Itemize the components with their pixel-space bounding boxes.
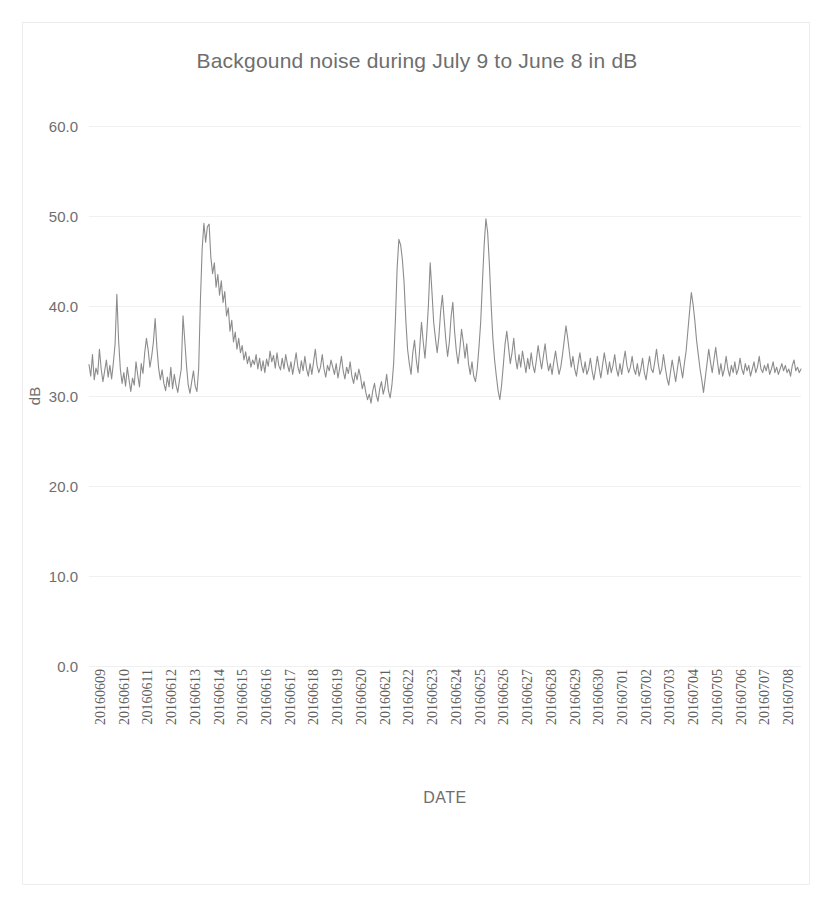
y-axis-tick-label: 40.0	[49, 298, 78, 315]
y-axis-tick-label: 30.0	[49, 388, 78, 405]
x-axis-title: DATE	[89, 789, 801, 807]
gridline	[89, 666, 801, 667]
x-axis-tick-label: 20160609	[93, 669, 109, 725]
x-axis-tick-label: 20160628	[544, 669, 560, 725]
x-axis-tick-label: 20160703	[662, 669, 678, 725]
x-axis-tick-label: 20160702	[639, 669, 655, 725]
y-axis-title: dB	[26, 387, 43, 405]
x-axis-tick-label: 20160701	[615, 669, 631, 725]
x-axis-tick-label: 20160621	[378, 669, 394, 725]
y-axis-tick-label: 20.0	[49, 478, 78, 495]
plot-area: 0.010.020.030.040.050.060.0 dB	[89, 126, 801, 666]
y-axis-tick-label: 0.0	[57, 658, 78, 675]
x-axis-tick-label: 20160624	[449, 669, 465, 725]
x-axis-tick-label: 20160704	[686, 669, 702, 725]
x-axis-tick-label: 20160614	[212, 669, 228, 725]
x-axis-tick-label: 20160619	[330, 669, 346, 725]
x-axis-tick-label: 20160708	[781, 669, 797, 725]
chart-container: Backgound noise during July 9 to June 8 …	[22, 22, 810, 885]
x-axis-tick-label: 20160623	[425, 669, 441, 725]
chart-title: Backgound noise during July 9 to June 8 …	[23, 49, 811, 73]
x-axis-tick-label: 20160611	[140, 669, 156, 724]
x-axis-tick-label: 20160629	[568, 669, 584, 725]
x-axis-tick-label: 20160618	[306, 669, 322, 725]
x-axis-tick-label: 20160706	[734, 669, 750, 725]
x-axis-tick-label: 20160630	[591, 669, 607, 725]
x-axis-tick-label: 20160620	[354, 669, 370, 725]
x-axis-tick-label: 20160625	[473, 669, 489, 725]
x-axis-tick-label: 20160622	[401, 669, 417, 725]
x-axis-tick-label: 20160627	[520, 669, 536, 725]
y-axis-tick-label: 50.0	[49, 208, 78, 225]
x-axis-tick-label: 20160705	[710, 669, 726, 725]
x-axis-tick-label: 20160612	[164, 669, 180, 725]
noise-series-line	[89, 126, 801, 666]
x-axis-tick-label: 20160626	[496, 669, 512, 725]
x-axis-tick-label: 20160617	[283, 669, 299, 725]
x-axis-tick-label: 20160613	[188, 669, 204, 725]
y-axis-tick-label: 10.0	[49, 568, 78, 585]
x-axis-tick-label: 20160707	[757, 669, 773, 725]
x-axis-tick-labels: 2016060920160610201606112016061220160613…	[89, 669, 801, 787]
x-axis-tick-label: 20160616	[259, 669, 275, 725]
x-axis-tick-label: 20160615	[235, 669, 251, 725]
x-axis-tick-label: 20160610	[117, 669, 133, 725]
y-axis-tick-label: 60.0	[49, 118, 78, 135]
